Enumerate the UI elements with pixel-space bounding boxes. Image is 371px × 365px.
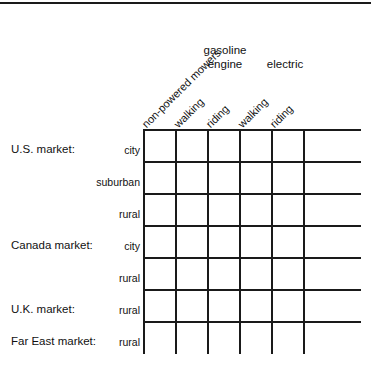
matrix-figure: non-powered mowers walking riding walkin…: [0, 0, 371, 365]
group-label-gasoline-line2: engine: [188, 58, 262, 71]
grid-vline-3: [239, 129, 241, 354]
column-header-electric-walking: walking: [236, 96, 270, 130]
grid-vline-4: [271, 129, 273, 354]
row-segment-label-uk-rural: rural: [40, 304, 140, 316]
grid-vline-5: [303, 129, 305, 354]
column-header-gasoline-walking: walking: [172, 96, 206, 130]
grid-vline-2: [207, 129, 209, 354]
grid-vline-1: [175, 129, 177, 354]
row-segment-label-canada-city: city: [40, 240, 140, 252]
row-segment-label-canada-rural: rural: [40, 272, 140, 284]
group-label-gasoline-line1: gasoline: [188, 44, 262, 57]
column-header-electric-riding: riding: [268, 103, 295, 130]
grid-vline-0: [143, 129, 145, 354]
row-segment-label-us-suburban: suburban: [40, 176, 140, 188]
row-segment-label-far-east-rural: rural: [40, 336, 140, 348]
group-label-electric: electric: [253, 58, 317, 71]
column-header-gasoline-riding: riding: [204, 103, 231, 130]
row-segment-label-us-city: city: [40, 144, 140, 156]
row-segment-label-us-rural: rural: [40, 208, 140, 220]
